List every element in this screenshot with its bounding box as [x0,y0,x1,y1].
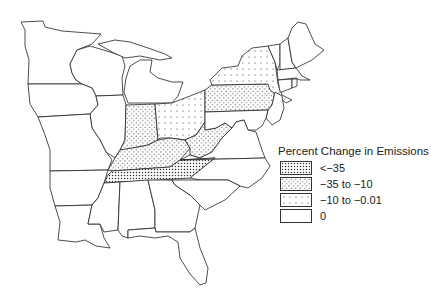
state-IA [28,84,98,117]
legend-label: −10 to −0.01 [320,194,382,206]
state-FL [128,228,208,285]
legend-label: <−35 [320,162,345,174]
swatch-medium-dots [280,177,312,191]
state-PA [205,84,275,112]
legend-item: −35 to −10 [278,176,429,192]
legend: Percent Change in Emissions <−35 −35 to … [278,145,429,224]
legend-item: 0 [278,208,429,224]
swatch-none [280,209,312,223]
legend-label: 0 [320,210,326,222]
state-MA [277,68,310,80]
swatch-dense-dots [280,161,312,175]
state-ME [288,22,324,68]
state-MI [124,60,183,103]
swatch-sparse-dots [280,193,312,207]
legend-item: <−35 [278,160,429,176]
legend-item: −10 to −0.01 [278,192,429,208]
state-CT [278,79,292,92]
legend-title: Percent Change in Emissions [278,145,429,157]
legend-label: −35 to −10 [320,178,373,190]
state-RI [292,79,297,88]
